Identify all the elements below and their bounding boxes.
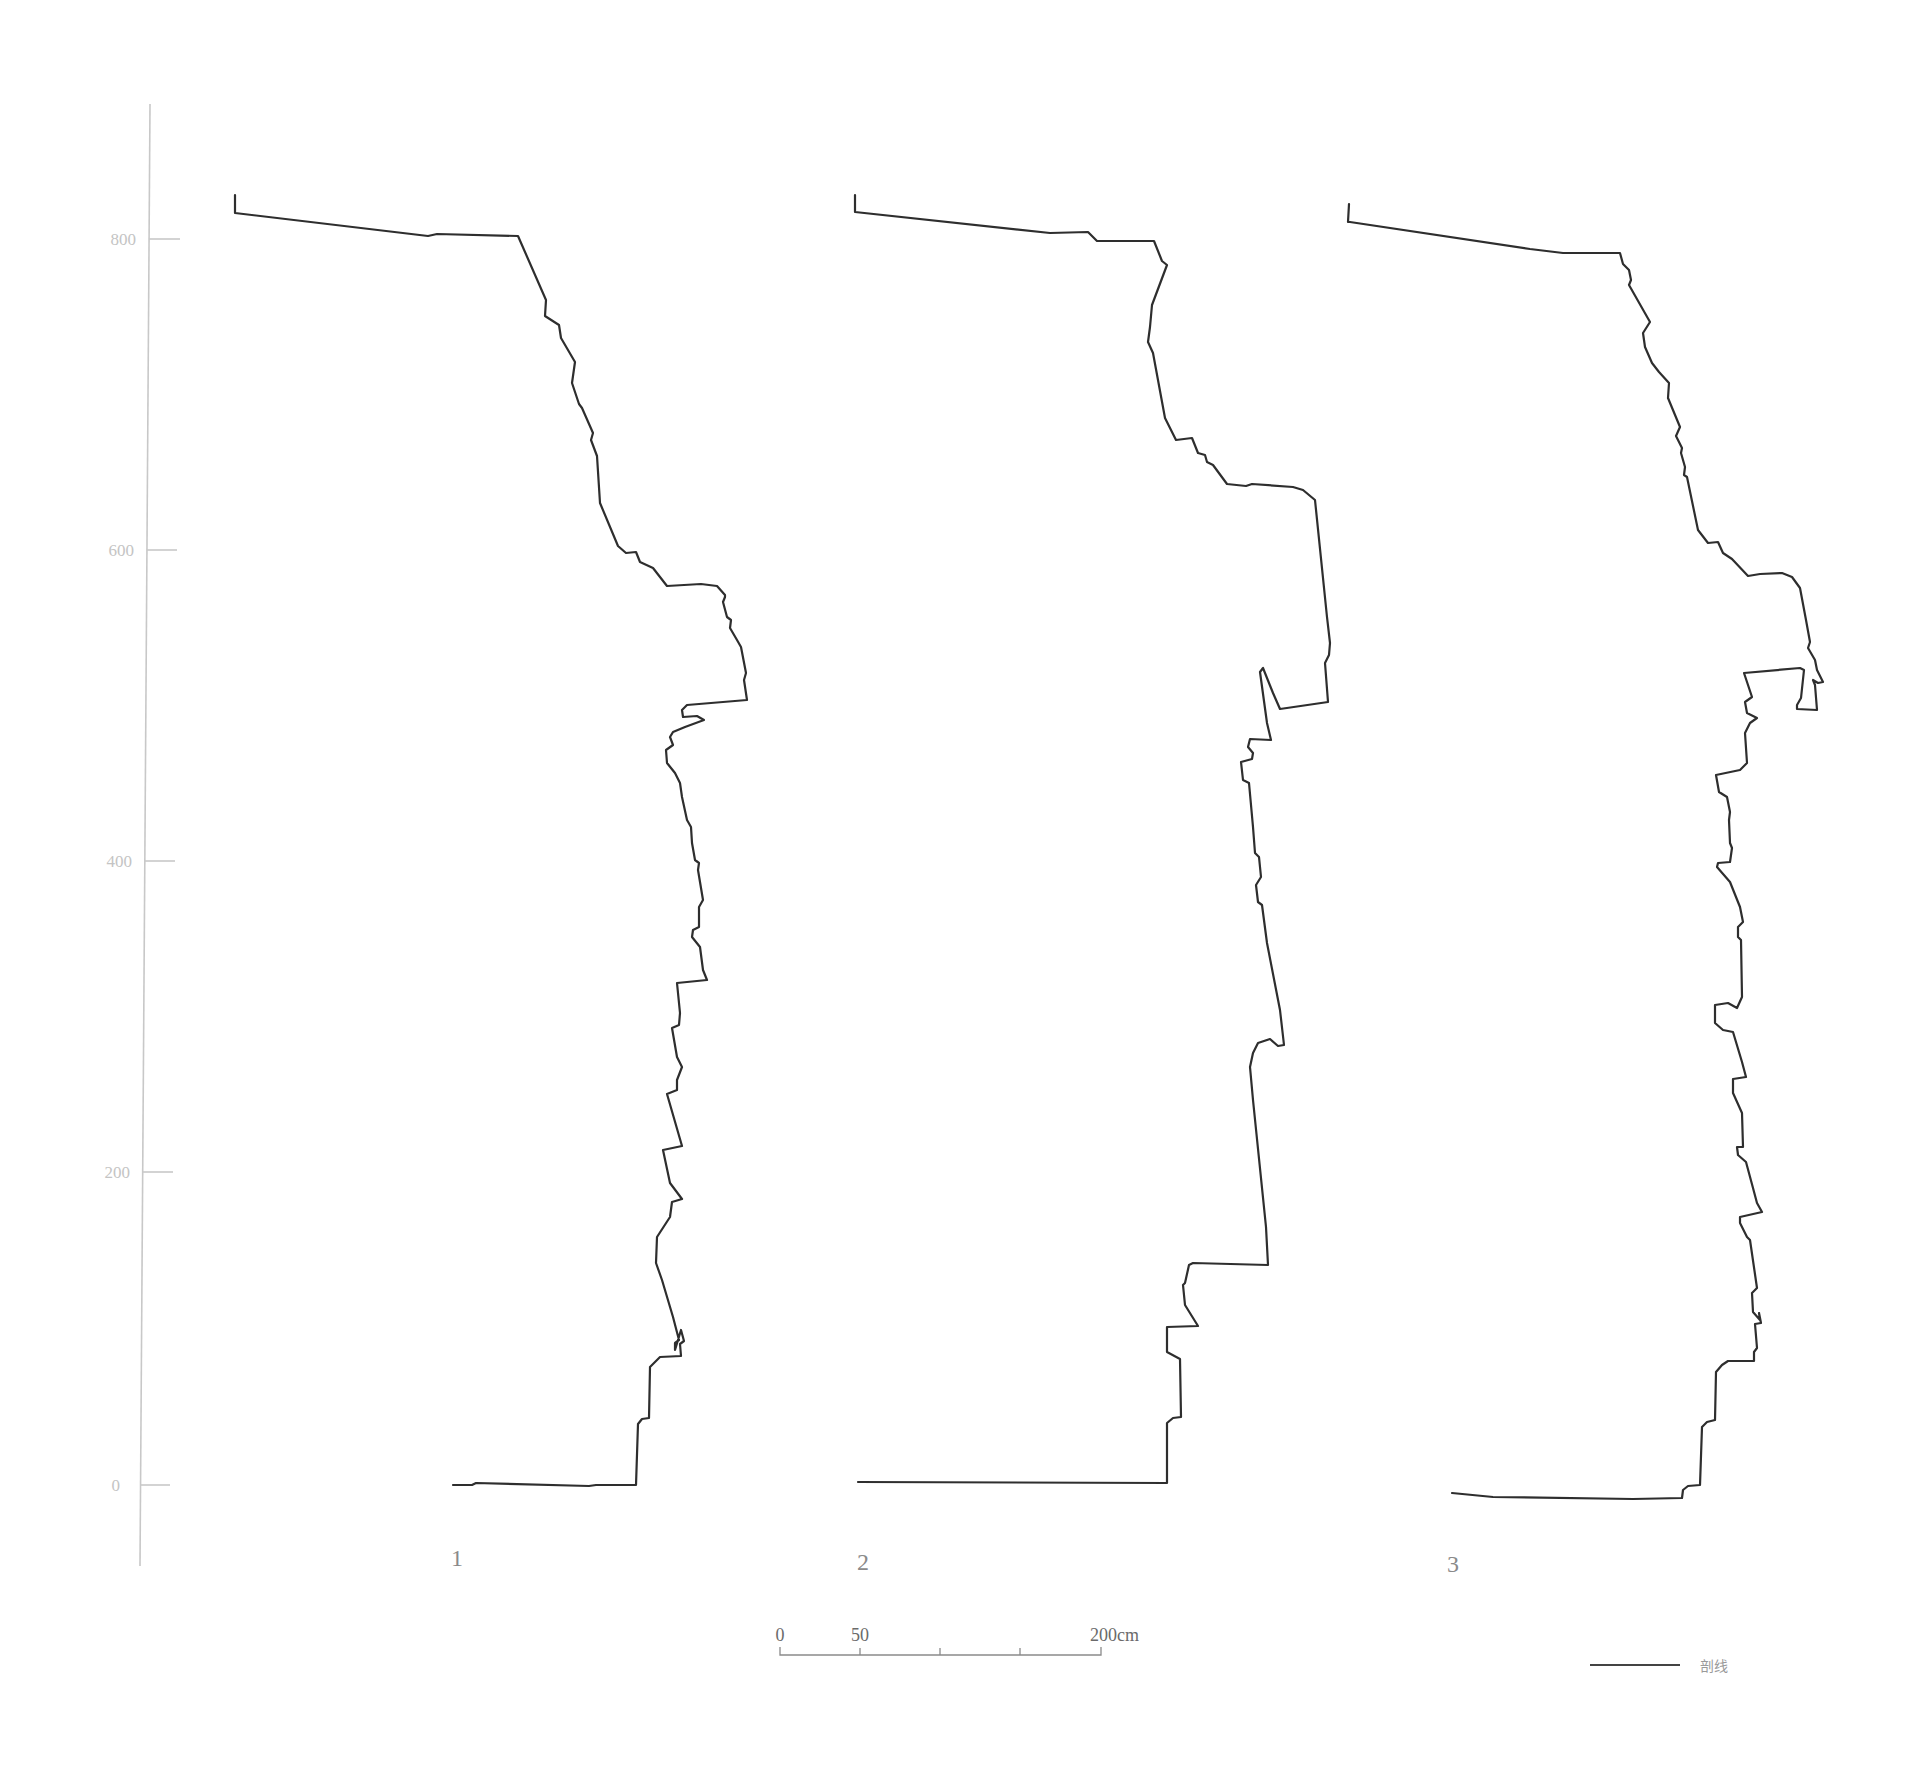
scale-bar: 0 50 200cm <box>776 1625 1140 1655</box>
profile-2-line <box>855 195 1330 1483</box>
profile-3-label: 3 <box>1447 1551 1459 1577</box>
y-tick-label-200: 200 <box>105 1163 131 1182</box>
profile-2: 2 <box>855 195 1330 1575</box>
legend: 剖线 <box>1590 1658 1728 1674</box>
y-axis-line <box>140 104 150 1566</box>
scale-bar-label-0: 0 <box>776 1625 785 1645</box>
y-tick-label-400: 400 <box>107 852 133 871</box>
y-tick-label-600: 600 <box>109 541 135 560</box>
profile-1-label: 1 <box>451 1545 463 1571</box>
legend-label-section-line: 剖线 <box>1700 1658 1728 1674</box>
profile-1-line <box>235 195 747 1486</box>
y-axis: 800 600 400 200 0 <box>105 104 181 1566</box>
profile-1: 1 <box>235 195 747 1571</box>
profile-3: 3 <box>1348 204 1823 1577</box>
scale-bar-label-200cm: 200cm <box>1090 1625 1139 1645</box>
y-tick-label-800: 800 <box>111 230 137 249</box>
section-profile-figure: 800 600 400 200 0 1 2 3 0 50 200cm 剖线 <box>0 0 1917 1767</box>
profile-2-label: 2 <box>857 1549 869 1575</box>
y-tick-label-0: 0 <box>112 1476 121 1495</box>
scale-bar-label-50: 50 <box>851 1625 869 1645</box>
profile-3-line <box>1348 204 1823 1499</box>
